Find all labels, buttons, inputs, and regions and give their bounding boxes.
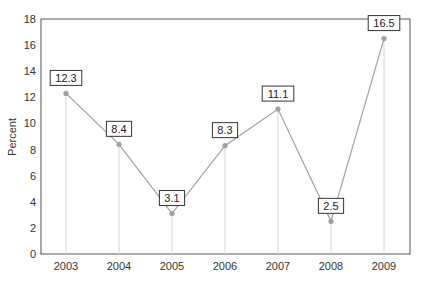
data-point-marker	[275, 106, 280, 111]
data-label: 16.5	[368, 16, 400, 31]
y-tick-label: 18	[24, 13, 36, 25]
x-tick-label: 2005	[160, 260, 184, 272]
x-axis: 2003200420052006200720082009	[54, 260, 396, 272]
data-point-marker	[169, 211, 174, 216]
x-tick-label: 2004	[107, 260, 131, 272]
svg-text:2.5: 2.5	[323, 200, 338, 212]
data-label: 8.3	[212, 123, 237, 138]
svg-text:11.1: 11.1	[268, 88, 289, 100]
y-tick-label: 8	[30, 144, 36, 156]
y-tick-label: 4	[30, 196, 36, 208]
line-chart: 024681012141618 200320042005200620072008…	[0, 0, 424, 283]
data-point-marker	[328, 219, 333, 224]
y-tick-label: 0	[30, 248, 36, 260]
y-tick-label: 12	[24, 91, 36, 103]
y-tick-label: 16	[24, 39, 36, 51]
y-tick-label: 2	[30, 222, 36, 234]
y-axis: 024681012141618	[24, 13, 36, 260]
x-tick-label: 2006	[213, 260, 237, 272]
y-axis-title: Percent	[6, 118, 18, 156]
data-point-marker	[63, 91, 68, 96]
data-point-marker	[222, 143, 227, 148]
data-label: 11.1	[262, 86, 294, 101]
data-label: 2.5	[318, 198, 343, 213]
data-label: 8.4	[106, 121, 131, 136]
svg-text:12.3: 12.3	[55, 72, 76, 84]
x-tick-label: 2009	[372, 260, 396, 272]
data-point-marker	[381, 36, 386, 41]
data-label: 12.3	[50, 70, 82, 85]
y-tick-label: 6	[30, 170, 36, 182]
x-tick-label: 2008	[319, 260, 343, 272]
svg-text:8.4: 8.4	[111, 123, 126, 135]
x-tick-label: 2003	[54, 260, 78, 272]
svg-text:16.5: 16.5	[373, 17, 394, 29]
svg-text:8.3: 8.3	[217, 124, 232, 136]
svg-text:3.1: 3.1	[164, 192, 179, 204]
y-tick-label: 14	[24, 65, 36, 77]
x-tick-label: 2007	[266, 260, 290, 272]
data-point-marker	[116, 142, 121, 147]
y-tick-label: 10	[24, 117, 36, 129]
data-label: 3.1	[159, 191, 184, 206]
